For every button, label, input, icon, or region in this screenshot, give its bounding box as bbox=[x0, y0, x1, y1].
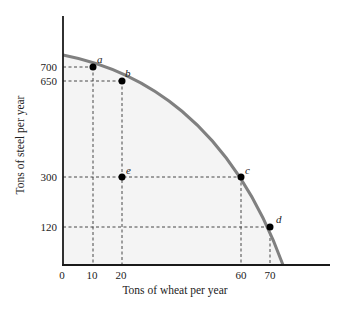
xtick-0: 0 bbox=[59, 269, 65, 281]
ytick-650: 650 bbox=[41, 75, 58, 87]
ytick-120: 120 bbox=[41, 221, 58, 233]
ytick-300: 300 bbox=[41, 171, 58, 183]
feasible-region bbox=[63, 55, 283, 265]
x-axis-label: Tons of wheat per year bbox=[122, 284, 227, 297]
xtick-70: 70 bbox=[265, 269, 277, 281]
label-a: a bbox=[97, 53, 103, 65]
y-axis-label: Tons of steel per year bbox=[14, 95, 27, 194]
xtick-10: 10 bbox=[87, 269, 99, 281]
label-e: e bbox=[126, 164, 131, 176]
ppf-chart: a b c d e 700 650 300 120 0 10 20 60 70 … bbox=[0, 0, 349, 309]
point-c bbox=[238, 174, 245, 181]
xtick-20: 20 bbox=[116, 269, 128, 281]
point-d bbox=[267, 224, 274, 231]
point-e bbox=[119, 174, 126, 181]
ytick-700: 700 bbox=[41, 61, 58, 73]
label-d: d bbox=[276, 213, 282, 225]
label-c: c bbox=[245, 164, 250, 176]
point-a bbox=[90, 64, 97, 71]
xtick-60: 60 bbox=[236, 269, 248, 281]
label-b: b bbox=[125, 67, 131, 79]
